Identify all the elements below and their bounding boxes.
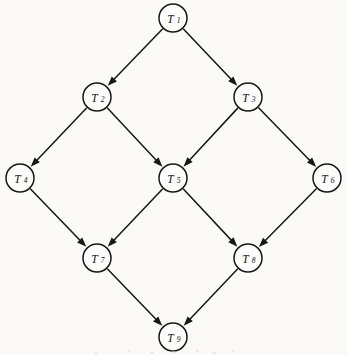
- edge-t8-to-t9: [184, 269, 238, 326]
- node-label-subscript: 9: [177, 335, 181, 344]
- graph-node-t5[interactable]: T5: [159, 164, 187, 192]
- edge-t7-to-t9: [108, 269, 163, 326]
- edge-t3-to-t5: [184, 108, 238, 166]
- node-label-subscript: 4: [24, 176, 28, 185]
- graph-node-t2[interactable]: T2: [83, 83, 111, 111]
- node-label-subscript: 2: [101, 95, 105, 104]
- edge-t3-to-t6: [259, 108, 316, 167]
- edge-t1-to-t2: [108, 29, 163, 86]
- graph-node-t1[interactable]: T1: [159, 4, 187, 32]
- node-label-subscript: 7: [101, 256, 105, 265]
- graph-node-t3[interactable]: T3: [234, 83, 262, 111]
- edge-t5-to-t8: [184, 189, 238, 246]
- edge-t2-to-t5: [108, 108, 163, 166]
- node-label-subscript: 5: [177, 176, 181, 185]
- graph-node-t7[interactable]: T7: [83, 244, 111, 272]
- node-label-subscript: 8: [252, 256, 256, 265]
- node-label-subscript: 1: [177, 16, 181, 25]
- node-label-subscript: 6: [331, 176, 335, 185]
- edge-t1-to-t3: [184, 29, 238, 86]
- edge-t4-to-t7: [31, 189, 87, 247]
- graph-node-t6[interactable]: T6: [313, 164, 341, 192]
- task-precedence-graph: T1T2T3T4T5T6T7T8T9: [0, 0, 347, 355]
- edge-t6-to-t8: [259, 189, 316, 247]
- figure-container: T1T2T3T4T5T6T7T8T9: [0, 0, 347, 355]
- graph-node-t9[interactable]: T9: [159, 323, 187, 351]
- node-label-subscript: 3: [251, 95, 256, 104]
- edge-t2-to-t4: [31, 108, 87, 167]
- edge-t5-to-t7: [108, 189, 163, 247]
- graph-node-t8[interactable]: T8: [234, 244, 262, 272]
- graph-node-t4[interactable]: T4: [6, 164, 34, 192]
- nodes-layer: T1T2T3T4T5T6T7T8T9: [6, 4, 341, 351]
